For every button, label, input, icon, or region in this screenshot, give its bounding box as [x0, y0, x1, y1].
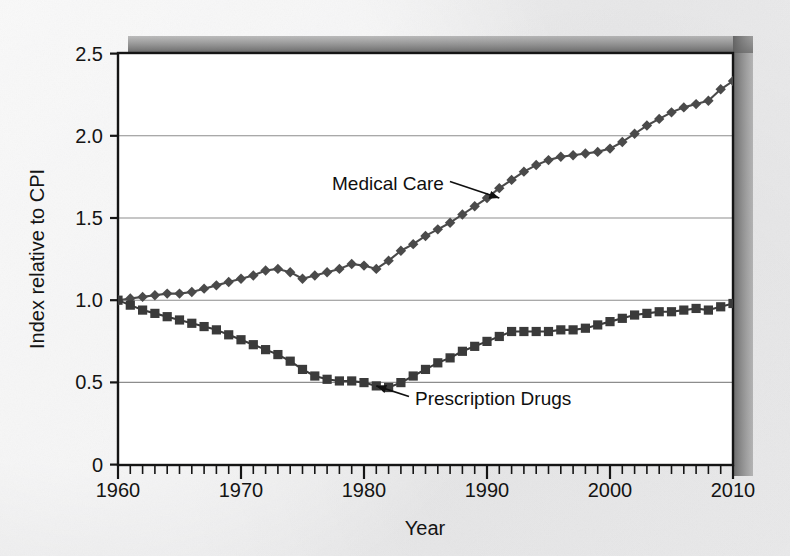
- data-point-marker: [409, 371, 418, 380]
- data-point-marker: [323, 375, 332, 384]
- data-point-marker: [556, 325, 565, 334]
- data-point-marker: [655, 307, 664, 316]
- data-point-marker: [679, 305, 688, 314]
- y-tick-label-2-5: 2.5: [75, 43, 103, 65]
- data-point-marker: [642, 309, 651, 318]
- data-point-marker: [458, 347, 467, 356]
- data-point-marker: [347, 376, 356, 385]
- data-point-marker: [630, 310, 639, 319]
- data-point-marker: [236, 335, 245, 344]
- data-point-marker: [163, 312, 172, 321]
- data-point-marker: [175, 315, 184, 324]
- data-point-marker: [150, 309, 159, 318]
- data-point-marker: [618, 314, 627, 323]
- x-tick-label-1980: 1980: [342, 479, 387, 501]
- y-axis-title: Index relative to CPI: [26, 169, 48, 349]
- y-tick-label-1-0: 1.0: [75, 289, 103, 311]
- x-tick-label-1970: 1970: [219, 479, 264, 501]
- data-point-marker: [544, 327, 553, 336]
- data-point-marker: [605, 317, 614, 326]
- x-axis-ticks: [118, 465, 733, 479]
- data-point-marker: [200, 322, 209, 331]
- y-tick-label-0-5: 0.5: [75, 371, 103, 393]
- data-point-marker: [704, 305, 713, 314]
- data-point-marker: [507, 327, 516, 336]
- chart-page: 2.5 2.0 1.5 1.0 0.5 0 Index relative to …: [0, 0, 790, 556]
- data-point-marker: [446, 353, 455, 362]
- data-point-marker: [716, 302, 725, 311]
- series-label-medical-care: Medical Care: [332, 173, 444, 194]
- data-point-marker: [470, 342, 479, 351]
- data-point-marker: [667, 307, 676, 316]
- y-tick-label-0: 0: [92, 454, 103, 476]
- data-point-marker: [569, 325, 578, 334]
- data-point-marker: [310, 371, 319, 380]
- x-tick-label-1990: 1990: [465, 479, 510, 501]
- data-point-marker: [433, 358, 442, 367]
- data-point-marker: [495, 332, 504, 341]
- data-point-marker: [421, 365, 430, 374]
- line-chart-figure: 2.5 2.0 1.5 1.0 0.5 0 Index relative to …: [0, 0, 790, 556]
- data-point-marker: [482, 337, 491, 346]
- data-point-marker: [286, 357, 295, 366]
- y-tick-label-2-0: 2.0: [75, 125, 103, 147]
- data-point-marker: [273, 350, 282, 359]
- data-point-marker: [692, 304, 701, 313]
- series-label-prescription-drugs: Prescription Drugs: [415, 388, 571, 409]
- data-point-marker: [532, 327, 541, 336]
- data-point-marker: [249, 340, 258, 349]
- data-point-marker: [519, 327, 528, 336]
- data-point-marker: [138, 305, 147, 314]
- data-point-marker: [187, 319, 196, 328]
- data-point-marker: [224, 330, 233, 339]
- data-point-marker: [335, 376, 344, 385]
- x-tick-labels: 1960 1970 1980 1990 2000 2010: [96, 479, 756, 501]
- data-point-marker: [593, 320, 602, 329]
- data-point-marker: [126, 301, 135, 310]
- y-tick-labels: 2.5 2.0 1.5 1.0 0.5 0: [75, 43, 103, 476]
- data-point-marker: [261, 345, 270, 354]
- data-point-marker: [212, 325, 221, 334]
- data-point-marker: [396, 378, 405, 387]
- x-axis-title: Year: [405, 517, 446, 539]
- y-tick-label-1-5: 1.5: [75, 207, 103, 229]
- data-point-marker: [359, 378, 368, 387]
- x-tick-label-2000: 2000: [588, 479, 633, 501]
- x-tick-label-1960: 1960: [96, 479, 141, 501]
- data-point-marker: [581, 324, 590, 333]
- x-tick-label-2010: 2010: [711, 479, 756, 501]
- data-point-marker: [298, 365, 307, 374]
